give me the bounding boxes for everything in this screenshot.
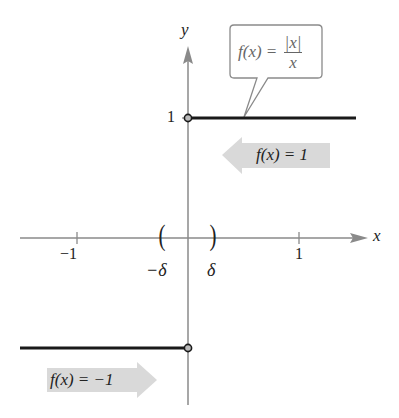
upper-arrow-label: f(x) = 1 <box>256 145 308 165</box>
open-circle-upper <box>184 114 191 121</box>
left-paren: ( <box>159 218 166 252</box>
tick-label-pos1: 1 <box>295 245 303 263</box>
y-axis-label: y <box>181 20 189 40</box>
callout-numerator: |x| <box>284 33 303 53</box>
open-circle-lower <box>184 344 191 351</box>
pos-delta-label: δ <box>207 260 215 281</box>
neg-delta-label: −δ <box>146 260 167 281</box>
chart-canvas <box>0 0 399 418</box>
right-paren: ) <box>210 218 217 252</box>
tick-label-neg1: −1 <box>60 245 77 263</box>
callout-fraction: |x| x <box>284 33 303 72</box>
callout-denominator: x <box>289 53 297 72</box>
x-axis-label: x <box>373 226 381 246</box>
callout-fx: f(x) = <box>238 42 282 62</box>
tick-label-y1: 1 <box>167 108 175 126</box>
lower-arrow-label: f(x) = −1 <box>50 370 114 390</box>
callout-formula: f(x) = |x| x <box>238 30 320 74</box>
